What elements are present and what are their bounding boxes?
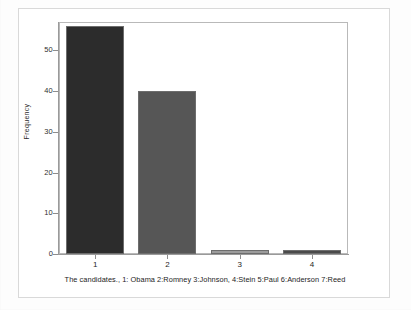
y-axis-tick — [53, 213, 58, 214]
y-axis-tick-label: 20 — [7, 169, 53, 177]
bars-layer — [59, 22, 348, 254]
y-axis-tick — [53, 91, 58, 92]
bar-1 — [66, 26, 124, 254]
x-axis-line — [58, 254, 349, 255]
y-axis-tick-label-wrap: 0 — [0, 250, 53, 258]
y-axis-tick-label-wrap: 20 — [0, 169, 53, 177]
y-axis-tick-label-wrap: 10 — [0, 209, 53, 217]
x-axis-tick — [240, 255, 241, 259]
y-axis-tick — [53, 50, 58, 51]
y-axis-tick — [53, 173, 58, 174]
bar-2 — [138, 91, 196, 254]
y-axis-tick-label: 50 — [7, 46, 53, 54]
bar-3 — [211, 250, 269, 254]
x-axis-tick-label: 3 — [220, 260, 260, 270]
x-axis-tick — [167, 255, 168, 259]
x-axis-tick-label: 1 — [75, 260, 115, 270]
y-axis-tick — [53, 132, 58, 133]
x-axis-tick — [312, 255, 313, 259]
y-axis-tick-label: 0 — [7, 250, 53, 258]
y-axis-title: Frequency — [23, 82, 30, 162]
y-axis-tick — [53, 254, 58, 255]
x-axis-tick-label: 4 — [292, 260, 332, 270]
y-axis-tick-label: 10 — [7, 209, 53, 217]
y-axis-tick-label: 30 — [7, 128, 53, 136]
x-axis-caption: The candidates., 1: Obama 2:Romney 3:Joh… — [30, 275, 380, 284]
figure-root: 01020304050 Frequency 1234 The candidate… — [0, 0, 411, 310]
bar-4 — [283, 250, 341, 254]
x-axis-tick-label: 2 — [147, 260, 187, 270]
y-axis-tick-label: 40 — [7, 87, 53, 95]
x-axis-tick — [95, 255, 96, 259]
y-axis-tick-label-wrap: 50 — [0, 46, 53, 54]
